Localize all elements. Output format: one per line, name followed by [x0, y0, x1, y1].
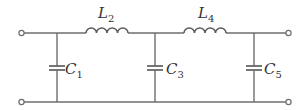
terminal-input-bottom	[19, 99, 24, 104]
inductor-L4: L4	[184, 4, 226, 33]
inductor-L2: L2	[86, 4, 128, 33]
terminal-input-top	[19, 30, 24, 35]
inductor-coil	[86, 28, 128, 33]
label-C1: C1	[65, 60, 83, 80]
ladder-circuit-diagram: C1 L2 C3 L4 C5	[0, 0, 308, 110]
label-L2: L2	[97, 4, 114, 24]
terminal-output-bottom	[286, 99, 291, 104]
label-C3: C3	[166, 60, 184, 80]
inductor-coil	[184, 28, 226, 33]
label-C5: C5	[264, 60, 282, 80]
capacitor-C5: C5	[246, 33, 282, 102]
terminal-output-top	[286, 30, 291, 35]
capacitor-C3: C3	[147, 33, 184, 102]
capacitor-C1: C1	[49, 33, 83, 102]
label-L4: L4	[197, 4, 214, 24]
